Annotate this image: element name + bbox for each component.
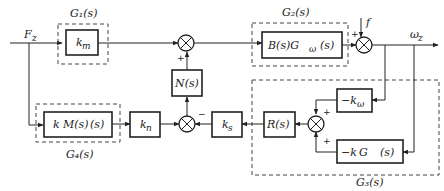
group-g4-label: G₄(s) (66, 148, 93, 161)
svg-text:ω: ω (357, 99, 365, 109)
summing-junction-4 (308, 116, 324, 132)
svg-text:(s): (s) (320, 39, 334, 52)
summing-junction-3 (179, 116, 195, 132)
svg-text:−k: −k (341, 146, 357, 159)
output-signal-label: ω z (410, 28, 423, 43)
group-g2-label: G₂(s) (282, 6, 309, 19)
svg-text:B(s)G: B(s)G (267, 39, 299, 52)
output-tap-2-wire (403, 45, 414, 152)
sum3-sign-top: − (198, 109, 206, 119)
svg-text:k: k (53, 118, 60, 131)
svg-text:G: G (359, 146, 368, 159)
summing-junction-1 (178, 35, 194, 51)
input-signal-label: F z (23, 28, 37, 43)
sum2-sign-top: + (351, 29, 359, 39)
block-N-label: N(s) (174, 77, 199, 90)
summing-junction-2 (356, 37, 372, 53)
svg-text:ω: ω (309, 44, 317, 54)
input-branch-wire (29, 43, 43, 125)
disturbance-label: f (365, 16, 372, 29)
sum4-sign-bottom: + (323, 136, 331, 146)
svg-text:(s): (s) (90, 118, 104, 131)
group-g1-label: G₁(s) (70, 7, 97, 20)
svg-text:z: z (417, 33, 423, 43)
group-g3-label: G₃(s) (356, 176, 383, 189)
svg-text:z: z (31, 33, 37, 43)
svg-text:−k: −k (341, 94, 357, 107)
svg-text:m: m (82, 41, 91, 51)
svg-text:n: n (146, 123, 152, 133)
svg-text:s: s (228, 123, 233, 133)
block-R-label: R(s) (266, 118, 290, 131)
block-diagram: F z G₁(s) k m + N(s) G₂(s) B(s)G ω (s) +… (0, 0, 444, 191)
output-tap-1-wire (372, 45, 385, 100)
sum1-sign-bottom: + (177, 53, 185, 63)
svg-text:(s): (s) (380, 146, 394, 159)
svg-text:F: F (23, 28, 32, 41)
svg-text:M(s): M(s) (62, 118, 89, 131)
sum4-sign-top: + (323, 107, 331, 117)
block-neg-k-G-label: −k G (s) (341, 146, 394, 159)
